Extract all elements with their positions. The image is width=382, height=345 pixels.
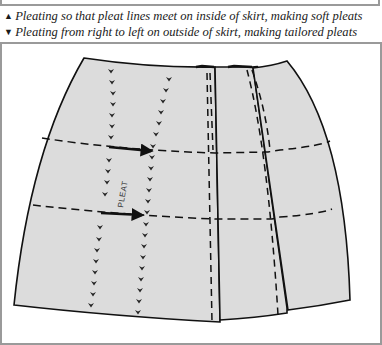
waist-tab [196,66,214,67]
waist-tab [228,66,252,67]
skirt-left-panel [14,58,220,322]
skirt-pleat-diagram: PLEAT [0,0,382,345]
